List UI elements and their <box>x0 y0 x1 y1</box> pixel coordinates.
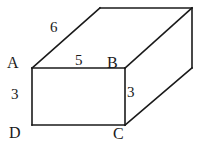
edge-A-to-back-top-left <box>32 8 100 68</box>
measure-label-right-edge: 3 <box>127 85 135 100</box>
measure-label-left-edge: 3 <box>11 87 19 102</box>
vertex-label-a: A <box>7 55 19 71</box>
vertex-label-d: D <box>9 125 21 141</box>
edge-C-to-back-bottom-right <box>125 68 192 125</box>
rectangular-prism-drawing <box>0 0 203 151</box>
vertex-label-c: C <box>113 126 124 142</box>
measure-label-top-edge: 6 <box>50 20 58 35</box>
edge-B-to-back-top-right <box>125 8 192 68</box>
geometry-figure: A B C D 6 5 3 3 <box>0 0 203 151</box>
measure-label-front-top-edge: 5 <box>75 53 83 68</box>
vertex-label-b: B <box>107 55 118 71</box>
